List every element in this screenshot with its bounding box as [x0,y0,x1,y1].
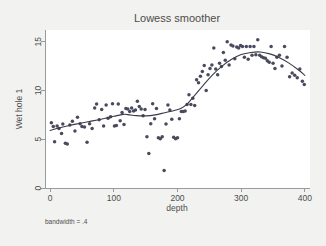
scatter-point [216,73,220,77]
scatter-point [187,93,191,97]
scatter-point [296,76,300,80]
scatter-point [117,102,121,106]
scatter-point [189,103,193,107]
scatter-point [128,110,132,114]
scatter-point [118,119,122,123]
scatter-point [245,45,249,49]
y-tick-label-0: 0 [33,185,43,190]
scatter-point [222,51,226,55]
scatter-point [153,117,157,121]
scatter-point [243,56,247,60]
scatter-point [250,54,254,58]
scatter-point [246,58,250,62]
scatter-point [111,102,115,106]
scatter-point [120,111,124,115]
scatter-point [227,63,231,67]
scatter-point [293,74,297,78]
scatter-point [76,116,80,120]
scatter-point [139,107,143,111]
scatter-point [269,45,273,49]
scatter-point [193,104,197,108]
x-tick-label-100: 100 [107,193,121,203]
scatter-point [273,67,277,71]
scatter-point [288,75,292,79]
scatter-point [164,122,168,126]
y-tick-label-15: 15 [33,37,43,47]
scatter-point [115,124,119,128]
scatter-point [201,70,205,74]
y-tick-label-5: 5 [33,137,43,142]
scatter-point [52,125,56,129]
scatter-point [203,64,207,68]
scatter-point [225,40,229,44]
scatter-point [100,108,104,112]
scatter-point [160,135,164,139]
scatter-point [122,123,126,127]
x-tick-label-400: 400 [298,193,312,203]
scatter-point [178,117,182,121]
scatter-point [60,132,64,136]
scatter-point [290,71,294,75]
y-tick-label-10: 10 [33,85,43,95]
scatter-point [151,102,155,106]
x-tick-label-200: 200 [170,193,184,203]
scatter-point [280,64,284,68]
scatter-point [130,106,134,110]
scatter-point [206,73,210,77]
scatter-point [267,60,271,64]
scatter-point [218,61,222,65]
scatter-point [61,122,64,126]
scatter-point [204,89,208,93]
scatter-point [83,125,87,129]
bandwidth-note: bandwidth = .4 [45,218,88,225]
scatter-point [88,122,92,126]
scatter-point [271,61,275,65]
scatter-point [145,135,149,139]
scatter-point [303,83,307,87]
scatter-point [208,67,212,71]
scatter-point [212,46,216,50]
scatter-point [143,108,147,112]
scatter-point [231,44,235,48]
scatter-point [50,121,54,125]
scatter-point [183,109,187,113]
scatter-point [241,45,245,49]
y-axis-title: Wet hole 1 [14,88,24,129]
scatter-point [90,127,94,131]
scatter-point [155,107,159,111]
scatter-point [248,45,252,49]
scatter-point [162,169,166,173]
scatter-point [199,75,203,79]
x-tick-label-0: 0 [48,193,53,203]
scatter-point [254,53,258,57]
x-tick-label-300: 300 [234,193,248,203]
scatter-point [285,56,289,60]
scatter-point [252,45,256,49]
scatter-point [197,81,201,85]
scatter-point [166,103,170,107]
scatter-point [283,45,287,49]
lowess-scatter-chart: Lowess smoother 051015 0100200300400 dep… [0,0,326,246]
scatter-point [278,54,282,58]
scatter-point [104,103,108,107]
scatter-point [170,117,174,121]
scatter-point [93,106,97,110]
scatter-point [53,140,57,144]
scatter-point [95,102,99,106]
scatter-point [147,152,151,156]
scatter-point [256,38,260,42]
scatter-point [176,136,180,140]
scatter-point [73,129,77,133]
scatter-point [224,58,228,62]
scatter-point [85,140,89,144]
scatter-point [71,119,75,123]
scatter-point [149,122,153,126]
scatter-point [66,142,70,146]
scatter-point [301,79,305,83]
chart-figure: Lowess smoother 051015 0100200300400 dep… [0,0,326,246]
scatter-point [102,124,106,128]
scatter-point [195,78,199,82]
scatter-point [134,108,138,112]
scatter-point [210,63,214,67]
chart-title: Lowess smoother [134,12,221,24]
